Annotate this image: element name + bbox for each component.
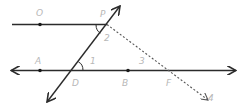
point-a-dot [38,69,42,73]
label-p: P [100,9,106,19]
geometry-diagram: O P 2 A 1 D 3 B F 4 [0,0,242,107]
point-o-dot [38,23,42,27]
label-d: D [72,78,79,88]
label-angle-2: 2 [104,33,110,43]
label-a: A [34,56,41,66]
label-angle-3: 3 [139,56,145,66]
label-b: B [122,78,128,88]
label-angle-4: 4 [208,93,214,103]
transversal-line [47,6,120,102]
point-b-dot [126,69,130,73]
label-f: F [166,78,172,88]
angle-arc-d [79,62,84,71]
label-o: O [36,8,43,18]
dashed-ray-pf [107,25,208,101]
label-angle-1: 1 [90,56,96,66]
